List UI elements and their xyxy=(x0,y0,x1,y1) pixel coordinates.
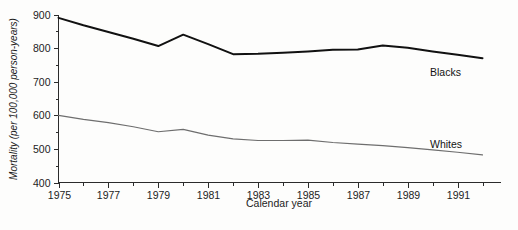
x-axis-title: Calendar year xyxy=(246,197,312,209)
y-tick-label-800: 800 xyxy=(33,42,51,54)
series-label-whites: Whites xyxy=(430,138,462,150)
x-tick-label-1989: 1989 xyxy=(397,189,421,201)
chart-figure: 400500600700800900 197519771979198119831… xyxy=(0,0,518,230)
x-tick-label-1991: 1991 xyxy=(447,189,471,201)
x-tick-label-1981: 1981 xyxy=(197,189,221,201)
x-tick-label-1979: 1979 xyxy=(147,189,171,201)
data-series-group xyxy=(59,18,483,155)
line-chart-plot: 400500600700800900 197519771979198119831… xyxy=(0,0,518,230)
x-axis-major-ticks xyxy=(60,183,459,188)
y-tick-label-400: 400 xyxy=(33,177,51,189)
y-tick-label-700: 700 xyxy=(33,76,51,88)
x-tick-label-1987: 1987 xyxy=(347,189,371,201)
y-axis: 400500600700800900 xyxy=(33,9,59,189)
y-tick-label-900: 900 xyxy=(33,9,51,21)
series-label-blacks: Blacks xyxy=(430,66,461,78)
x-tick-label-1977: 1977 xyxy=(97,189,121,201)
x-tick-label-1975: 1975 xyxy=(48,189,72,201)
y-axis-tick-labels: 400500600700800900 xyxy=(33,9,51,189)
y-tick-label-500: 500 xyxy=(33,143,51,155)
series-line-whites xyxy=(59,115,483,155)
y-tick-label-600: 600 xyxy=(33,109,51,121)
series-line-blacks xyxy=(59,18,483,58)
y-axis-title: Mortality (per 100,000 person-years) xyxy=(8,18,19,180)
